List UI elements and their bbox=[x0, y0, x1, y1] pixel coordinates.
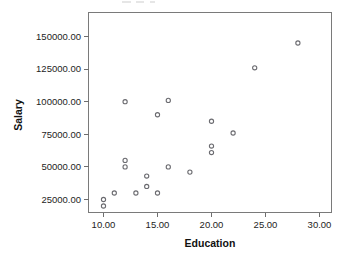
x-tick-label: 10.00 bbox=[92, 219, 116, 230]
y-tick-label: 75000.00 bbox=[41, 129, 81, 140]
y-tick-label: 125000.00 bbox=[36, 63, 81, 74]
scatter-plot-figure: 150000.00 125000.00 100000.00 75000.00 5… bbox=[0, 0, 351, 260]
y-tick-label: 100000.00 bbox=[36, 96, 81, 107]
x-tick-label: 30.00 bbox=[308, 219, 332, 230]
y-tick-label: 25000.00 bbox=[41, 194, 81, 205]
x-axis-title: Education bbox=[185, 237, 236, 249]
x-tick-label: 20.00 bbox=[200, 219, 224, 230]
y-axis-title: Salary bbox=[12, 99, 24, 131]
x-tick-label: 25.00 bbox=[254, 219, 278, 230]
y-tick-label: 50000.00 bbox=[41, 161, 81, 172]
plot-frame bbox=[89, 13, 332, 213]
clipped-title-artifact bbox=[122, 1, 155, 3]
chart-canvas: 150000.00 125000.00 100000.00 75000.00 5… bbox=[0, 0, 351, 260]
y-tick-label: 150000.00 bbox=[36, 31, 81, 42]
x-tick-label: 15.00 bbox=[146, 219, 170, 230]
